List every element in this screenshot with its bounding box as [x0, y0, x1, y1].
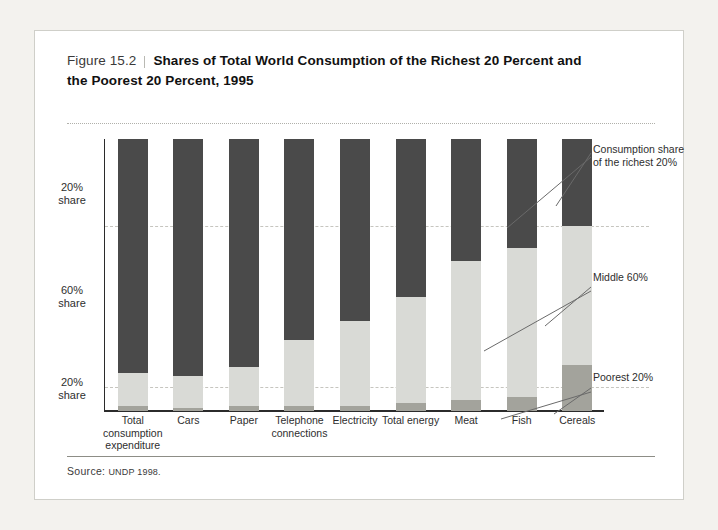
figure-card: Figure 15.2Shares of Total World Consump…	[34, 30, 684, 500]
source-value: UNDP 1998.	[108, 467, 160, 477]
source-divider	[67, 456, 655, 457]
source-label: Source:	[67, 465, 105, 477]
annotation-middle: Middle 60%	[593, 271, 685, 284]
annotation-leader-lines	[35, 31, 685, 501]
annotation-poorest: Poorest 20%	[593, 371, 685, 384]
source-note: Source: UNDP 1998.	[67, 465, 161, 477]
chart-plot-area: 20% share 60% share 20% share Totalconsu…	[35, 31, 685, 501]
annotation-richest: Consumption share of the richest 20%	[593, 143, 685, 169]
